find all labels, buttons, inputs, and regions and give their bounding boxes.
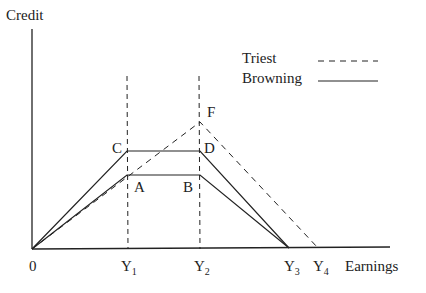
point-label-d: D [204, 141, 215, 156]
y-axis-label: Credit [6, 8, 44, 23]
x-axis [32, 247, 390, 249]
legend-triest-label: Triest [242, 51, 276, 66]
y2-guide [199, 76, 200, 249]
tick-y4: Y4 [313, 259, 329, 275]
legend-browning-label: Browning [242, 71, 302, 86]
origin-label: 0 [29, 259, 37, 274]
point-label-a: A [134, 180, 145, 195]
tick-y3: Y3 [284, 259, 300, 275]
y1-guide [127, 76, 128, 249]
point-label-f: F [207, 105, 215, 120]
triest-line [32, 122, 318, 249]
point-label-c: C [112, 141, 122, 156]
tick-y2: Y2 [194, 259, 210, 275]
x-axis-label: Earnings [345, 259, 398, 274]
browning-upper-line [32, 151, 289, 249]
tick-y1: Y1 [121, 259, 137, 275]
point-label-b: B [183, 180, 193, 195]
browning-lower-line [32, 175, 289, 249]
